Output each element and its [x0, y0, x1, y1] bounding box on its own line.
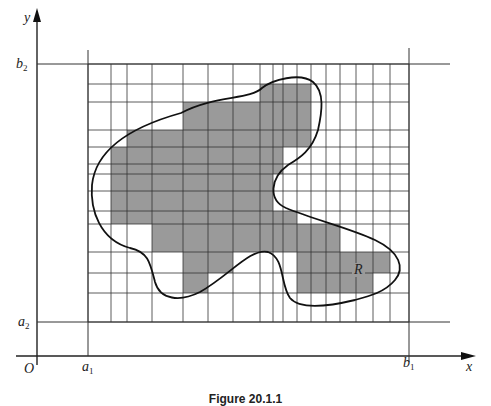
b1-base: b [403, 355, 410, 370]
x-axis-label: x [466, 360, 472, 374]
a1-sub: 1 [89, 366, 94, 376]
a2-label: a2 [18, 315, 30, 331]
b1-sub: 1 [410, 362, 415, 372]
b2-base: b [16, 56, 23, 71]
a2-sub: 2 [25, 321, 30, 331]
a2-base: a [18, 314, 25, 329]
shaded-cell [111, 147, 283, 174]
region-label: R [352, 263, 365, 277]
shaded-cell [152, 224, 340, 252]
b2-sub: 2 [23, 63, 28, 73]
a1-label: a1 [82, 360, 94, 376]
shaded-cell [111, 174, 273, 211]
b2-label: b2 [16, 57, 28, 73]
shaded-cell [260, 84, 311, 102]
origin-label: O [24, 362, 34, 376]
a1-base: a [82, 359, 89, 374]
b1-label: b1 [403, 356, 415, 372]
figure-caption: Figure 20.1.1 [0, 392, 491, 406]
y-axis-label: y [24, 11, 30, 25]
y-axis-arrow-icon [33, 8, 41, 22]
shaded-cell [111, 211, 297, 224]
shaded-inner-cells [111, 84, 390, 293]
shaded-cell [183, 102, 311, 130]
